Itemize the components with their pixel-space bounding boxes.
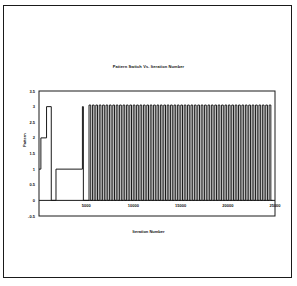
y-tick-label: 1: [33, 167, 36, 172]
pattern-series-line: [39, 105, 273, 200]
plot-area: -0.500.511.522.533.550001000015000200002…: [0, 0, 297, 286]
y-tick-label: 1.5: [29, 151, 35, 156]
x-tick-label: 15000: [175, 203, 187, 208]
y-tick-label: 3.5: [29, 89, 35, 94]
x-tick-label: 10000: [128, 203, 140, 208]
y-tick-label: 2: [33, 135, 36, 140]
x-tick-label: 25000: [269, 203, 281, 208]
y-tick-label: 3: [33, 104, 36, 109]
x-tick-label: 5000: [82, 203, 92, 208]
y-tick-label: 0.5: [29, 182, 35, 187]
x-tick-label: 20000: [222, 203, 234, 208]
y-tick-label: -0.5: [28, 214, 36, 219]
y-tick-label: 2.5: [29, 120, 35, 125]
y-tick-label: 0: [33, 198, 36, 203]
